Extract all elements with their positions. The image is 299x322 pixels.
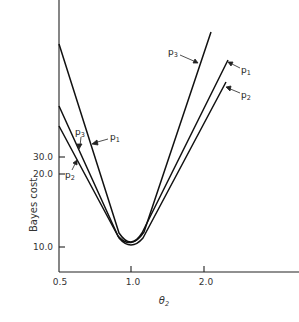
y-tick-label-20: 20.0: [33, 169, 53, 179]
series-p3-label-right: p3: [168, 47, 178, 59]
axes: [59, 0, 299, 272]
series-p1-label-right: p1: [241, 65, 251, 77]
series-p2-line: [59, 82, 226, 245]
bayes-cost-chart: 30.0 20.0 10.0 0.5 1.0 2.0 Bayes cost θ2…: [0, 0, 299, 322]
x-tick-label-0-5: 0.5: [53, 277, 67, 287]
series-p1-line: [59, 44, 228, 242]
y-tick-label-10: 10.0: [33, 242, 53, 252]
series-p2-label-right: p2: [241, 90, 251, 102]
series-p1-label-left: p1: [110, 132, 120, 144]
annotation-arrows: [72, 55, 240, 170]
x-tick-label-1: 1.0: [126, 277, 141, 287]
series-p2-label-left: p2: [65, 170, 75, 182]
y-axis-label: Bayes cost: [28, 178, 39, 232]
series-p3-label-left: p3: [75, 127, 85, 139]
y-tick-label-30: 30.0: [33, 152, 53, 162]
x-axis-label: θ2: [159, 295, 169, 308]
x-tick-label-2: 2.0: [199, 277, 214, 287]
